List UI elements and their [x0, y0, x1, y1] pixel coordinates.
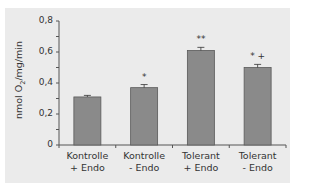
- x-category-label: Kontrolle- Endo: [114, 150, 174, 174]
- significance-marker: * +: [250, 51, 265, 61]
- significance-marker: **: [196, 34, 206, 44]
- significance-marker: *: [142, 72, 147, 82]
- y-tick-label: 0,8: [23, 15, 53, 25]
- y-tick-label: 0,2: [23, 108, 53, 118]
- bar: [131, 88, 158, 145]
- y-tick-label: 0,4: [23, 77, 53, 87]
- y-tick-label: 0,6: [23, 46, 53, 56]
- x-category-label: Tolerant- Endo: [228, 150, 288, 174]
- x-category-label: Kontrolle+ Endo: [57, 150, 117, 174]
- y-tick-label: 0: [23, 139, 53, 149]
- bar: [244, 68, 271, 146]
- x-category-label: Tolerant+ Endo: [171, 150, 231, 174]
- bar: [187, 50, 214, 145]
- bar: [74, 97, 101, 145]
